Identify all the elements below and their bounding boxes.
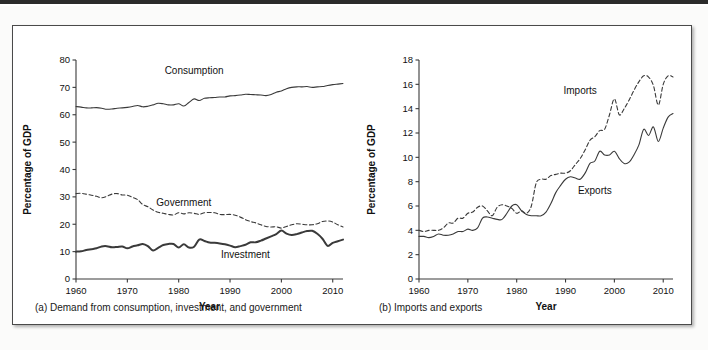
svg-text:Investment: Investment xyxy=(221,249,270,260)
svg-text:12: 12 xyxy=(402,127,413,138)
svg-text:20: 20 xyxy=(59,219,70,230)
caption-b: (b) Imports and exports xyxy=(379,302,482,313)
svg-text:Imports: Imports xyxy=(564,85,597,96)
svg-text:2010: 2010 xyxy=(653,285,674,296)
figure-frame: 0102030405060708019601970198019902000201… xyxy=(12,25,692,325)
svg-text:70: 70 xyxy=(59,82,70,93)
svg-text:2000: 2000 xyxy=(604,285,625,296)
svg-text:30: 30 xyxy=(59,191,70,202)
svg-text:14: 14 xyxy=(402,103,413,114)
svg-text:Consumption: Consumption xyxy=(165,65,224,76)
svg-text:6: 6 xyxy=(408,200,413,211)
svg-text:1970: 1970 xyxy=(117,285,138,296)
svg-text:Percentage of GDP: Percentage of GDP xyxy=(22,124,33,215)
svg-text:18: 18 xyxy=(402,54,413,65)
svg-text:10: 10 xyxy=(402,152,413,163)
svg-text:1970: 1970 xyxy=(457,285,478,296)
svg-text:1960: 1960 xyxy=(65,285,86,296)
svg-text:4: 4 xyxy=(408,225,413,236)
svg-text:Government: Government xyxy=(156,197,211,208)
svg-text:2010: 2010 xyxy=(322,285,343,296)
svg-text:50: 50 xyxy=(59,137,70,148)
svg-text:2000: 2000 xyxy=(271,285,292,296)
svg-text:60: 60 xyxy=(59,109,70,120)
figure-page: 0102030405060708019601970198019902000201… xyxy=(0,6,708,350)
svg-text:Percentage of GDP: Percentage of GDP xyxy=(366,124,377,215)
svg-text:0: 0 xyxy=(65,273,70,284)
chart-b-svg: 024681012141618196019701980199020002010Y… xyxy=(361,26,691,326)
svg-text:10: 10 xyxy=(59,246,70,257)
svg-text:1980: 1980 xyxy=(168,285,189,296)
svg-text:16: 16 xyxy=(402,79,413,90)
chart-a-svg: 0102030405060708019601970198019902000201… xyxy=(13,26,361,326)
svg-text:1990: 1990 xyxy=(555,285,576,296)
svg-text:0: 0 xyxy=(408,273,413,284)
top-rule xyxy=(0,0,708,4)
caption-a: (a) Demand from consumption, investment,… xyxy=(35,302,302,313)
svg-text:1960: 1960 xyxy=(408,285,429,296)
svg-text:Year: Year xyxy=(535,301,556,312)
svg-text:80: 80 xyxy=(59,54,70,65)
svg-text:40: 40 xyxy=(59,164,70,175)
svg-text:2: 2 xyxy=(408,249,413,260)
chart-panel-a: 0102030405060708019601970198019902000201… xyxy=(13,26,361,326)
svg-text:Exports: Exports xyxy=(578,185,612,196)
svg-text:1980: 1980 xyxy=(506,285,527,296)
svg-text:8: 8 xyxy=(408,176,413,187)
chart-panel-b: 024681012141618196019701980199020002010Y… xyxy=(361,26,691,326)
svg-text:1990: 1990 xyxy=(219,285,240,296)
